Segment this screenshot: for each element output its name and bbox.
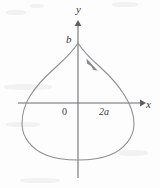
x-axis-label: x (146, 99, 151, 110)
figure-container: y x b 0 2a (0, 0, 160, 188)
y-axis-label: y (76, 4, 81, 15)
math-figure-svg (0, 0, 160, 188)
x-intercept-label: 2a (99, 107, 109, 117)
y-axis-arrowhead (75, 20, 82, 26)
origin-label: 0 (62, 107, 67, 117)
curve-direction-arrowhead (87, 59, 98, 71)
cusp-height-label: b (66, 34, 72, 45)
